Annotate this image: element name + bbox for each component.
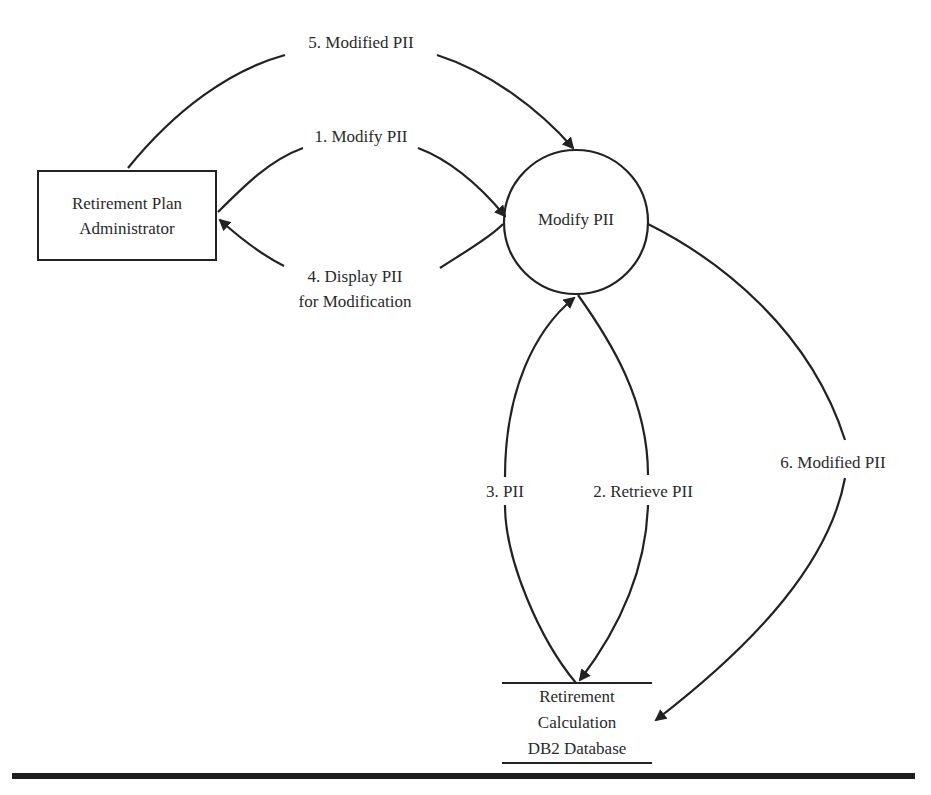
datastore-label-line-1: Retirement <box>502 684 652 710</box>
flow-2-arrow <box>580 505 648 680</box>
datastore-label-line-2: Calculation <box>502 710 652 736</box>
datastore-label-line-3: DB2 Database <box>502 736 652 762</box>
flow-6-label: 6. Modified PII <box>758 452 908 473</box>
flow-1-arrow-start <box>218 148 303 212</box>
flow-4-arrow-start <box>440 224 503 268</box>
flow-6-arrow <box>656 478 845 720</box>
flow-3-arrow-start <box>505 505 576 683</box>
flow-2-label: 2. Retrieve PII <box>575 481 711 502</box>
flow-5-label: 5. Modified PII <box>284 32 438 53</box>
entity-label-line-1: Retirement Plan <box>72 191 182 216</box>
flow-1-label: 1. Modify PII <box>303 126 419 147</box>
diagram-canvas <box>0 0 931 795</box>
flow-4-label-line-1: 4. Display PII <box>280 266 430 287</box>
flow-6-arrow-start <box>648 224 845 440</box>
flow-5-arrow <box>437 55 573 148</box>
flow-4-label: 4. Display PII for Modification <box>280 266 430 312</box>
flow-3-arrow <box>505 298 574 477</box>
flow-5-arrow-start <box>128 55 285 168</box>
flow-4-label-line-2: for Modification <box>280 291 430 312</box>
flow-4-arrow <box>220 220 284 266</box>
bottom-rule <box>12 773 915 779</box>
process-label: Modify PII <box>504 210 648 230</box>
flow-1-arrow <box>418 148 505 216</box>
datastore-db2: Retirement Calculation DB2 Database <box>502 684 652 762</box>
flow-2-arrow-start <box>578 295 648 475</box>
flow-3-label: 3. PII <box>475 481 535 502</box>
entity-label-line-2: Administrator <box>79 216 174 241</box>
external-entity-administrator: Retirement Plan Administrator <box>37 170 217 261</box>
